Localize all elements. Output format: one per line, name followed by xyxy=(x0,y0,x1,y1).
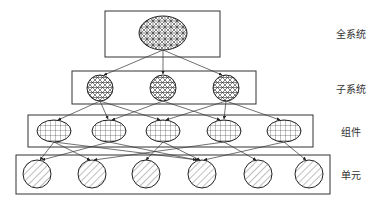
level-label-unit: 单元 xyxy=(341,167,361,182)
unit-nodes xyxy=(23,160,323,188)
subsystem-nodes xyxy=(87,75,239,101)
unit-node xyxy=(244,160,272,188)
unit-node xyxy=(295,160,323,188)
unit-node xyxy=(188,160,216,188)
subsystem-node xyxy=(150,75,176,101)
unit-level-box xyxy=(16,155,330,194)
component-node xyxy=(37,120,71,142)
component-node xyxy=(92,120,126,142)
component-nodes xyxy=(37,120,301,142)
level-label-subsystem: 子系统 xyxy=(336,81,366,96)
component-node xyxy=(207,120,241,142)
level-label-system: 全系统 xyxy=(336,26,366,41)
unit-node xyxy=(23,160,51,188)
hierarchy-diagram xyxy=(0,0,373,207)
component-node xyxy=(146,120,180,142)
unit-node xyxy=(78,160,106,188)
unit-node xyxy=(132,160,160,188)
subsystem-node xyxy=(213,75,239,101)
component-node xyxy=(267,120,301,142)
level-label-component: 组件 xyxy=(341,124,361,139)
edges-component-to-unit xyxy=(40,142,306,160)
system-node xyxy=(139,16,187,50)
subsystem-node xyxy=(87,75,113,101)
